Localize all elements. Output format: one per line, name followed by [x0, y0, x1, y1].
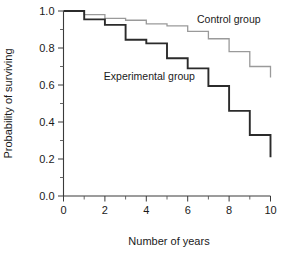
y-axis-title: Probability of surviving: [2, 48, 14, 158]
series-annotation-experimental-group: Experimental group: [104, 70, 195, 82]
x-tick-label: 4: [143, 204, 149, 216]
chart-canvas: 0.00.20.40.60.81.00246810Number of years…: [0, 0, 288, 257]
y-tick-label: 1.0: [39, 5, 54, 17]
x-tick-label: 8: [226, 204, 232, 216]
series-curve-experimental-group: [64, 11, 271, 157]
x-tick-label: 10: [264, 204, 276, 216]
y-tick-label: 0.2: [39, 153, 54, 165]
x-tick-label: 6: [185, 204, 191, 216]
y-tick-label: 0.8: [39, 42, 54, 54]
x-tick-label: 0: [60, 204, 66, 216]
survival-curve-chart: 0.00.20.40.60.81.00246810Number of years…: [0, 0, 288, 257]
x-tick-label: 2: [102, 204, 108, 216]
y-tick-label: 0.4: [39, 116, 54, 128]
x-axis-title: Number of years: [128, 235, 210, 247]
y-tick-label: 0.6: [39, 79, 54, 91]
series-annotation-control-group: Control group: [197, 13, 261, 25]
y-tick-label: 0.0: [39, 190, 54, 202]
